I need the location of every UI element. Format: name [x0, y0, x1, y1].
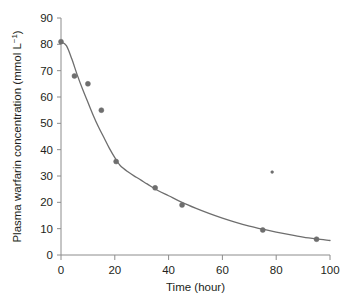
- data-point-markers: [59, 39, 320, 242]
- data-point-marker: [85, 81, 90, 86]
- y-axis-title: Plasma warfarin concentration (mmol L−1): [10, 30, 23, 242]
- y-tick-label: 60: [40, 91, 53, 103]
- data-point-marker: [59, 39, 64, 44]
- data-point-marker: [271, 171, 274, 174]
- y-tick-label: 70: [40, 65, 53, 77]
- data-point-marker: [99, 108, 104, 113]
- y-axis-ticks: 0102030405060708090: [40, 12, 61, 261]
- x-tick-label: 60: [216, 264, 229, 276]
- fitted-decay-curve: [61, 42, 330, 241]
- y-tick-label: 80: [40, 38, 53, 50]
- decay-curve-path: [61, 42, 330, 241]
- data-point-marker: [72, 73, 77, 78]
- chart-canvas: 0102030405060708090 020406080100 Time (h…: [0, 0, 358, 298]
- x-tick-label: 20: [108, 264, 121, 276]
- y-tick-label: 90: [40, 12, 53, 24]
- data-point-marker: [153, 185, 158, 190]
- warfarin-concentration-figure: 0102030405060708090 020406080100 Time (h…: [0, 0, 358, 298]
- y-tick-label: 30: [40, 170, 53, 182]
- x-tick-label: 0: [58, 264, 64, 276]
- data-point-marker: [260, 227, 265, 232]
- axes: [61, 18, 330, 255]
- x-axis-ticks: 020406080100: [58, 255, 340, 276]
- data-point-marker: [180, 202, 185, 207]
- y-tick-label: 50: [40, 117, 53, 129]
- x-tick-label: 40: [162, 264, 175, 276]
- data-point-marker: [314, 237, 319, 242]
- x-tick-label: 100: [320, 264, 339, 276]
- y-tick-label: 0: [47, 249, 53, 261]
- data-point-marker: [114, 159, 119, 164]
- x-axis-title: Time (hour): [166, 281, 225, 293]
- x-tick-label: 80: [270, 264, 283, 276]
- y-tick-label: 20: [40, 196, 53, 208]
- y-tick-label: 10: [40, 223, 53, 235]
- y-tick-label: 40: [40, 144, 53, 156]
